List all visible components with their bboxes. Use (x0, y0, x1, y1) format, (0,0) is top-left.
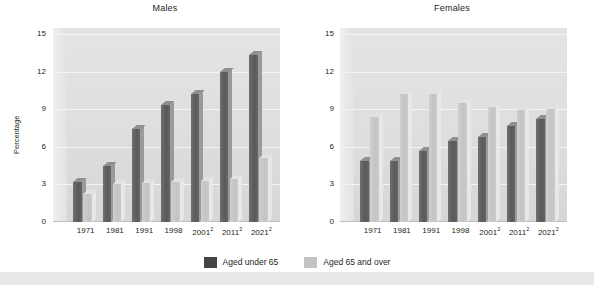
bar-face (370, 117, 379, 222)
bar-over65-2021 (259, 158, 268, 222)
bar-under65-1998 (448, 141, 457, 222)
y-axis-tick: 15 (308, 29, 334, 38)
bar-under65-1991 (419, 151, 428, 222)
chart-panel-females: Females 03691215197119811991199820012201… (300, 0, 594, 250)
bar-face (113, 184, 122, 222)
footer-band (0, 272, 594, 285)
legend-swatch-icon (204, 257, 217, 268)
bar-over65-1981 (113, 184, 122, 222)
bar-face (546, 109, 555, 222)
y-axis-tick: 6 (20, 142, 46, 151)
bar-side (525, 107, 529, 222)
bar-under65-1998 (161, 105, 170, 222)
plot-back-wall (53, 28, 67, 222)
bar-over65-2011 (517, 110, 526, 222)
bar-under65-2001 (478, 137, 487, 222)
bar-side (150, 180, 154, 222)
bar-under65-2021 (536, 119, 545, 222)
legend-swatch-icon (304, 257, 317, 268)
bar-over65-1998 (171, 182, 180, 222)
bar-over65-2001 (488, 107, 497, 222)
plot-back-wall (340, 28, 354, 222)
bar-side (496, 104, 500, 222)
bar-face (83, 194, 92, 222)
bar-under65-2001 (191, 94, 200, 222)
y-axis-tick: 3 (20, 179, 46, 188)
bar-face (161, 105, 170, 222)
y-axis-tick: 12 (20, 67, 46, 76)
bar-face (191, 94, 200, 222)
bar-face (249, 55, 258, 222)
y-axis-tick: 15 (20, 29, 46, 38)
gridline (53, 34, 280, 35)
bar-under65-2021 (249, 55, 258, 222)
bar-side (180, 179, 184, 222)
x-axis-tick: 20212 (243, 226, 279, 237)
y-axis-tick: 9 (20, 104, 46, 113)
bar-over65-1991 (142, 183, 151, 222)
bar-under65-1981 (390, 161, 399, 222)
plot-area-males (53, 28, 280, 222)
bar-over65-2021 (546, 109, 555, 222)
y-axis-tick: 0 (308, 217, 334, 226)
gridline (53, 72, 280, 73)
bar-over65-2011 (230, 179, 239, 222)
bar-side (238, 176, 242, 222)
figure: Males Percentage 03691215197119811991199… (0, 0, 594, 285)
bar-face (478, 137, 487, 222)
bar-face (448, 141, 457, 222)
legend-item-over65: Aged 65 and over (304, 257, 390, 268)
bar-face (201, 181, 210, 222)
legend: Aged under 65 Aged 65 and over (0, 252, 594, 272)
bar-face (536, 119, 545, 222)
chart-title-males: Males (0, 3, 300, 13)
chart-panel-males: Males Percentage 03691215197119811991199… (0, 0, 300, 250)
bar-over65-1971 (83, 194, 92, 222)
bar-side (408, 91, 412, 222)
gridline (340, 72, 567, 73)
bar-under65-2011 (220, 72, 229, 222)
legend-label: Aged under 65 (223, 257, 279, 267)
gridline (340, 109, 567, 110)
bar-side (209, 178, 213, 222)
bar-over65-2001 (201, 181, 210, 222)
legend-label: Aged 65 and over (323, 257, 390, 267)
y-axis-tick: 12 (308, 67, 334, 76)
bar-over65-1981 (400, 94, 409, 222)
y-axis-tick: 9 (308, 104, 334, 113)
bar-face (400, 94, 409, 222)
bar-side (92, 191, 96, 222)
bar-under65-1971 (73, 182, 82, 222)
bar-face (73, 182, 82, 222)
bar-side (467, 100, 471, 222)
bar-under65-1991 (132, 129, 141, 222)
bar-under65-1971 (360, 161, 369, 222)
y-axis-tick: 3 (308, 179, 334, 188)
gridline (340, 34, 567, 35)
bar-face (103, 166, 112, 222)
bar-under65-1981 (103, 166, 112, 222)
bar-face (458, 103, 467, 222)
plot-area-females (340, 28, 567, 222)
bar-under65-2011 (507, 126, 516, 223)
bar-over65-1998 (458, 103, 467, 222)
chart-title-females: Females (300, 3, 594, 13)
bar-side (379, 114, 383, 222)
bar-side (437, 91, 441, 222)
legend-item-under65: Aged under 65 (204, 257, 279, 268)
bar-face (390, 161, 399, 222)
bar-over65-1971 (370, 117, 379, 222)
bar-side (268, 155, 272, 222)
x-axis-tick: 20212 (530, 226, 566, 237)
bar-face (488, 107, 497, 222)
y-axis-tick: 6 (308, 142, 334, 151)
bar-over65-1991 (429, 94, 438, 222)
y-axis-tick: 0 (20, 217, 46, 226)
bar-face (259, 158, 268, 222)
bar-side (555, 106, 559, 222)
bar-face (360, 161, 369, 222)
bar-face (171, 182, 180, 222)
bar-side (121, 181, 125, 222)
